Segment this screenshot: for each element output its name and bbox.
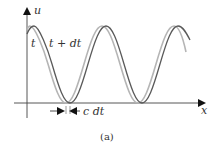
wave-propagation-diagram: u x t t + dt c dt (a): [0, 0, 217, 146]
displacement-label: c dt: [83, 105, 105, 118]
figure-caption: (a): [100, 131, 114, 142]
x-axis-label: x: [201, 104, 208, 117]
y-axis-label: u: [34, 4, 41, 17]
curve-label-t-plus-dt: t + dt: [49, 37, 82, 50]
curve-label-t: t: [31, 37, 36, 50]
